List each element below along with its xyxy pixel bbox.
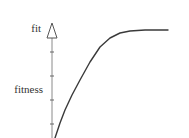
- fitness-curve: [55, 30, 168, 138]
- y-axis-label: fitness: [14, 84, 43, 95]
- y-axis-top-label: fit: [31, 23, 41, 34]
- y-axis-arrow-icon: [47, 23, 57, 38]
- fitness-chart: [0, 0, 189, 138]
